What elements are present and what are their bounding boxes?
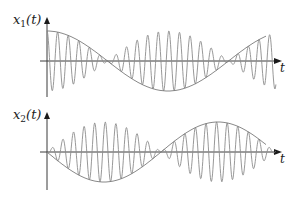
x2-y-axis-arrow-icon — [44, 112, 50, 119]
x1-y-axis-arrow-icon — [44, 17, 50, 24]
x2-ylabel: x2(t) — [13, 107, 41, 124]
plot-x1: x1(t) t — [13, 12, 285, 97]
x1-ylabel: x1(t) — [13, 12, 41, 29]
plot-x2: x2(t) t — [13, 107, 285, 190]
modulated-signals-figure: x1(t) t x2(t) t — [0, 0, 306, 198]
x1-ylabel-arg: (t) — [26, 12, 41, 27]
x2-t-label: t — [280, 152, 285, 166]
x2-ylabel-arg: (t) — [26, 107, 41, 122]
x1-t-label: t — [280, 61, 285, 75]
